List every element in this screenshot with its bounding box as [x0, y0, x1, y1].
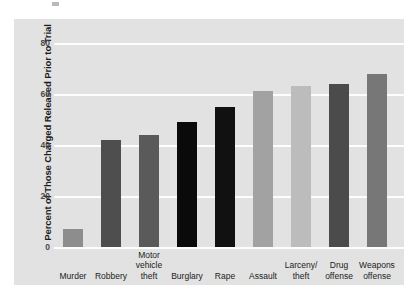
- bar-robbery: [101, 140, 121, 247]
- x-tick-label-line: Burglary: [166, 271, 208, 282]
- bar-motor-vehicle-theft: [139, 135, 159, 247]
- bar-murder: [63, 229, 83, 247]
- x-tick-label-line: Motor: [128, 250, 170, 261]
- x-tick-label-larceny-theft: Larceny/theft: [280, 260, 322, 281]
- plot-area: Percent of Those Charged Released Prior …: [14, 19, 404, 285]
- axes: 020406080MurderRobberyMotorvehicletheftB…: [14, 19, 404, 285]
- bar-larceny-theft: [291, 86, 311, 247]
- x-tick-label-line: Robbery: [90, 271, 132, 282]
- y-tick-label-0: 0: [30, 242, 50, 252]
- x-tick-label-line: Drug: [318, 260, 360, 271]
- bar-burglary: [177, 122, 197, 247]
- x-tick-label-line: Rape: [204, 271, 246, 282]
- x-tick-label-line: offense: [318, 271, 360, 282]
- x-tick-label-burglary: Burglary: [166, 271, 208, 282]
- bar-assault: [253, 91, 273, 247]
- bar-weapons-offense: [367, 74, 387, 247]
- x-tick-label-motor-vehicle-theft: Motorvehicletheft: [128, 250, 170, 282]
- y-tick-label-20: 20: [30, 191, 50, 201]
- x-tick-label-line: Weapons: [356, 260, 398, 271]
- gridline-60: [54, 94, 404, 96]
- bar-drug-offense: [329, 84, 349, 247]
- x-tick-label-murder: Murder: [52, 271, 94, 282]
- x-tick-label-weapons-offense: Weaponsoffense: [356, 260, 398, 281]
- y-tick-label-60: 60: [30, 89, 50, 99]
- x-tick-label-line: Larceny/: [280, 260, 322, 271]
- y-tick-label-80: 80: [30, 38, 50, 48]
- x-tick-label-drug-offense: Drugoffense: [318, 260, 360, 281]
- x-tick-label-line: Murder: [52, 271, 94, 282]
- x-tick-label-rape: Rape: [204, 271, 246, 282]
- chart-figure: Percent of Those Charged Released Prior …: [0, 0, 414, 302]
- x-tick-label-line: vehicle: [128, 260, 170, 271]
- x-tick-label-robbery: Robbery: [90, 271, 132, 282]
- gridline-80: [54, 43, 404, 45]
- x-tick-label-line: theft: [128, 271, 170, 282]
- x-tick-label-line: Assault: [242, 271, 284, 282]
- bar-rape: [215, 107, 235, 247]
- x-tick-label-assault: Assault: [242, 271, 284, 282]
- gridline-0: [54, 247, 404, 249]
- x-tick-label-line: offense: [356, 271, 398, 282]
- top-crop-mark: [52, 2, 59, 6]
- y-tick-label-40: 40: [30, 140, 50, 150]
- x-tick-label-line: theft: [280, 271, 322, 282]
